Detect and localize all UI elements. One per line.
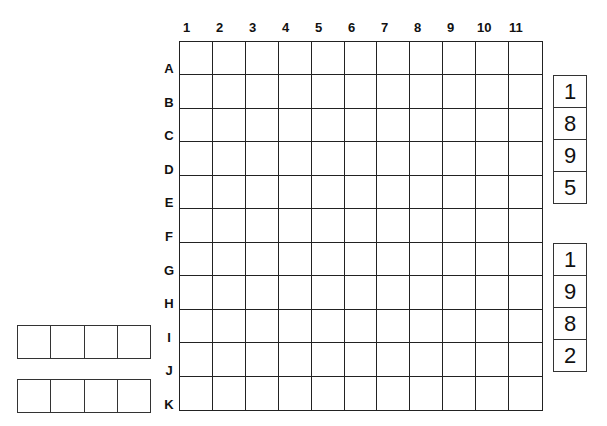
grid-cell-C5[interactable]: [312, 109, 345, 142]
grid-cell-A8[interactable]: [410, 42, 443, 75]
grid-cell-H9[interactable]: [443, 276, 476, 309]
grid-cell-E6[interactable]: [345, 176, 378, 209]
grid-cell-I1[interactable]: [180, 310, 213, 343]
grid-cell-B5[interactable]: [312, 75, 345, 108]
grid-cell-J1[interactable]: [180, 343, 213, 376]
grid-cell-I10[interactable]: [476, 310, 509, 343]
grid-cell-B8[interactable]: [410, 75, 443, 108]
grid-cell-C7[interactable]: [377, 109, 410, 142]
grid-cell-A5[interactable]: [312, 42, 345, 75]
grid-cell-C1[interactable]: [180, 109, 213, 142]
grid-cell-G1[interactable]: [180, 243, 213, 276]
grid-cell-F6[interactable]: [345, 209, 378, 242]
grid-cell-A7[interactable]: [377, 42, 410, 75]
grid-cell-B2[interactable]: [213, 75, 246, 108]
answer-cell[interactable]: [51, 380, 84, 412]
grid-cell-K1[interactable]: [180, 377, 213, 410]
grid-cell-B4[interactable]: [279, 75, 312, 108]
grid-cell-D7[interactable]: [377, 142, 410, 175]
grid-cell-J9[interactable]: [443, 343, 476, 376]
grid-cell-J11[interactable]: [509, 343, 542, 376]
grid-cell-D2[interactable]: [213, 142, 246, 175]
grid-cell-D3[interactable]: [246, 142, 279, 175]
grid-cell-D8[interactable]: [410, 142, 443, 175]
grid-cell-K9[interactable]: [443, 377, 476, 410]
grid-cell-F1[interactable]: [180, 209, 213, 242]
grid-cell-I11[interactable]: [509, 310, 542, 343]
grid-cell-H6[interactable]: [345, 276, 378, 309]
grid-cell-C6[interactable]: [345, 109, 378, 142]
grid-cell-E5[interactable]: [312, 176, 345, 209]
grid-cell-J4[interactable]: [279, 343, 312, 376]
grid-cell-K7[interactable]: [377, 377, 410, 410]
grid-cell-D1[interactable]: [180, 142, 213, 175]
grid-cell-G6[interactable]: [345, 243, 378, 276]
grid-cell-G3[interactable]: [246, 243, 279, 276]
grid-cell-J5[interactable]: [312, 343, 345, 376]
grid-cell-H10[interactable]: [476, 276, 509, 309]
grid-cell-F5[interactable]: [312, 209, 345, 242]
grid-cell-A10[interactable]: [476, 42, 509, 75]
grid-cell-J6[interactable]: [345, 343, 378, 376]
grid-cell-J7[interactable]: [377, 343, 410, 376]
grid-cell-G9[interactable]: [443, 243, 476, 276]
grid-cell-E8[interactable]: [410, 176, 443, 209]
grid-cell-C4[interactable]: [279, 109, 312, 142]
grid-cell-H1[interactable]: [180, 276, 213, 309]
grid-cell-C11[interactable]: [509, 109, 542, 142]
grid-cell-F11[interactable]: [509, 209, 542, 242]
grid-cell-F2[interactable]: [213, 209, 246, 242]
grid-cell-D6[interactable]: [345, 142, 378, 175]
grid-cell-J8[interactable]: [410, 343, 443, 376]
grid-cell-J10[interactable]: [476, 343, 509, 376]
grid-cell-K11[interactable]: [509, 377, 542, 410]
grid-cell-B6[interactable]: [345, 75, 378, 108]
grid-cell-K3[interactable]: [246, 377, 279, 410]
answer-cell[interactable]: [51, 326, 84, 358]
grid-cell-D4[interactable]: [279, 142, 312, 175]
grid-cell-E11[interactable]: [509, 176, 542, 209]
grid-cell-F3[interactable]: [246, 209, 279, 242]
grid-cell-E3[interactable]: [246, 176, 279, 209]
grid-cell-C2[interactable]: [213, 109, 246, 142]
answer-cell[interactable]: [118, 326, 150, 358]
grid-cell-B1[interactable]: [180, 75, 213, 108]
grid-cell-I7[interactable]: [377, 310, 410, 343]
grid-cell-K10[interactable]: [476, 377, 509, 410]
grid-cell-J3[interactable]: [246, 343, 279, 376]
grid-cell-D5[interactable]: [312, 142, 345, 175]
grid-cell-D10[interactable]: [476, 142, 509, 175]
grid-cell-H3[interactable]: [246, 276, 279, 309]
grid-cell-E1[interactable]: [180, 176, 213, 209]
grid-cell-H4[interactable]: [279, 276, 312, 309]
grid-cell-I4[interactable]: [279, 310, 312, 343]
grid-cell-F7[interactable]: [377, 209, 410, 242]
grid-cell-B7[interactable]: [377, 75, 410, 108]
grid-cell-E2[interactable]: [213, 176, 246, 209]
grid-cell-I3[interactable]: [246, 310, 279, 343]
grid-cell-D9[interactable]: [443, 142, 476, 175]
grid-cell-H2[interactable]: [213, 276, 246, 309]
grid-cell-G4[interactable]: [279, 243, 312, 276]
grid-cell-A6[interactable]: [345, 42, 378, 75]
grid-cell-C8[interactable]: [410, 109, 443, 142]
grid-cell-G5[interactable]: [312, 243, 345, 276]
answer-cell[interactable]: [118, 380, 150, 412]
grid-cell-A9[interactable]: [443, 42, 476, 75]
grid-cell-G2[interactable]: [213, 243, 246, 276]
grid-cell-G7[interactable]: [377, 243, 410, 276]
grid-cell-B9[interactable]: [443, 75, 476, 108]
grid-cell-A1[interactable]: [180, 42, 213, 75]
grid-cell-F10[interactable]: [476, 209, 509, 242]
grid-cell-B11[interactable]: [509, 75, 542, 108]
grid-cell-F8[interactable]: [410, 209, 443, 242]
grid-cell-C9[interactable]: [443, 109, 476, 142]
grid-cell-B3[interactable]: [246, 75, 279, 108]
grid-cell-G8[interactable]: [410, 243, 443, 276]
grid-cell-G11[interactable]: [509, 243, 542, 276]
grid-cell-H8[interactable]: [410, 276, 443, 309]
grid-cell-A2[interactable]: [213, 42, 246, 75]
grid-cell-G10[interactable]: [476, 243, 509, 276]
grid-cell-D11[interactable]: [509, 142, 542, 175]
answer-cell[interactable]: [18, 326, 51, 358]
